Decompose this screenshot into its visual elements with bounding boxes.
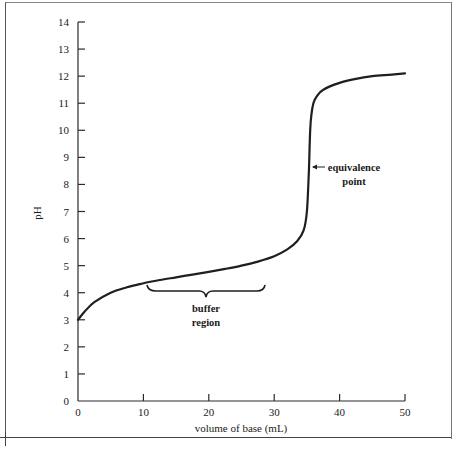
y-tick-label: 3 xyxy=(64,314,70,326)
y-tick-label: 1 xyxy=(64,368,70,380)
y-tick-label: 7 xyxy=(64,206,70,218)
x-axis-title: volume of base (mL) xyxy=(195,422,288,435)
buffer-label-line2: region xyxy=(192,317,221,328)
y-ticks: 01234567891011121314 xyxy=(58,16,85,407)
x-tick-label: 40 xyxy=(334,406,346,418)
y-tick-label: 0 xyxy=(64,395,70,407)
equivalence-label-line2: point xyxy=(342,176,366,187)
y-tick-label: 6 xyxy=(64,233,70,245)
y-tick-label: 4 xyxy=(64,287,70,299)
x-tick-label: 20 xyxy=(203,406,215,418)
y-tick-label: 5 xyxy=(64,260,70,272)
y-tick-label: 10 xyxy=(58,124,70,136)
y-tick-label: 8 xyxy=(64,178,70,190)
y-tick-label: 14 xyxy=(58,16,70,28)
x-tick-label: 30 xyxy=(269,406,281,418)
y-tick-label: 12 xyxy=(58,70,69,82)
arrow-left-icon xyxy=(312,165,317,170)
y-tick-label: 13 xyxy=(58,43,70,55)
buffer-label-line1: buffer xyxy=(192,303,220,314)
x-tick-label: 50 xyxy=(400,406,412,418)
x-ticks: 01020304050 xyxy=(75,394,411,418)
curly-brace-icon xyxy=(147,285,265,297)
y-tick-label: 2 xyxy=(64,341,70,353)
buffer-region-annotation: buffer region xyxy=(147,285,265,328)
y-tick-label: 9 xyxy=(64,151,70,163)
y-tick-label: 11 xyxy=(58,97,69,109)
x-tick-label: 10 xyxy=(138,406,150,418)
titration-curve xyxy=(78,73,405,319)
equivalence-label-line1: equivalence xyxy=(328,162,381,173)
equivalence-annotation: equivalence point xyxy=(312,162,381,187)
x-tick-label: 0 xyxy=(75,406,81,418)
y-axis-title: pH xyxy=(31,206,43,220)
figure-caption-cropped xyxy=(20,441,440,452)
